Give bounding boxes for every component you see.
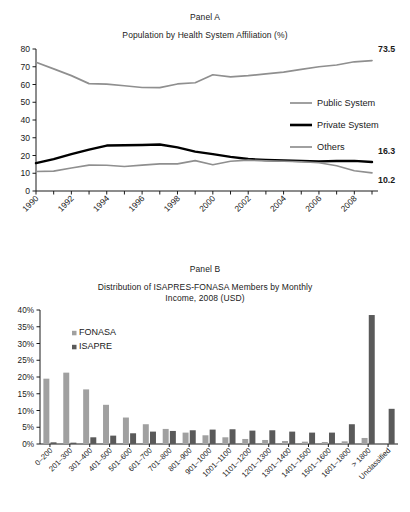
- bar-isapre: [90, 437, 96, 444]
- panel-a-titles: Panel A Population by Health System Affi…: [0, 12, 410, 41]
- panel-b-subtitle-line2: Income, 2008 (USD): [0, 293, 410, 304]
- y-tick-label: 60: [20, 80, 30, 90]
- y-tick-label: 10: [20, 168, 30, 178]
- panel-a-label: Panel A: [0, 12, 410, 23]
- bar-isapre: [110, 436, 116, 444]
- bar-fonasa: [262, 440, 268, 444]
- bar-fonasa: [83, 389, 89, 444]
- bar-fonasa: [322, 442, 328, 444]
- end-label-others: 10.2: [378, 175, 395, 185]
- y-tick-label: 30%: [18, 340, 34, 349]
- bar-isapre: [349, 424, 355, 444]
- bar-isapre: [309, 433, 315, 444]
- bar-isapre: [130, 433, 136, 444]
- bar-fonasa: [183, 433, 189, 444]
- bar-isapre: [51, 442, 57, 444]
- legend-label-others: Others: [317, 142, 345, 152]
- y-tick-label: 50: [20, 97, 30, 107]
- bar-fonasa: [202, 435, 208, 444]
- bar-isapre: [269, 430, 275, 444]
- bar-isapre: [170, 431, 176, 444]
- bar-fonasa: [163, 429, 169, 444]
- bar-isapre: [70, 443, 76, 444]
- panel-a: Panel A Population by Health System Affi…: [0, 0, 410, 256]
- panel-b-titles: Panel B Distribution of ISAPRES-FONASA M…: [0, 264, 410, 304]
- y-tick-label: 70: [20, 62, 30, 72]
- y-tick-label: 5%: [22, 423, 34, 432]
- x-tick-label: 2006: [303, 193, 323, 213]
- y-tick-label: 30: [20, 133, 30, 143]
- bar-isapre: [230, 429, 236, 444]
- x-tick-label: 1996: [126, 193, 146, 213]
- bar-fonasa: [342, 441, 348, 444]
- bar-isapre: [190, 430, 196, 444]
- panel-b-subtitle-line1: Distribution of ISAPRES-FONASA Members b…: [0, 282, 410, 293]
- panel-b-chart: 0%5%10%15%20%25%30%35%40%0–200201–300301…: [0, 304, 410, 512]
- bar-isapre: [289, 432, 295, 444]
- y-tick-label: 20: [20, 151, 30, 161]
- panel-b: Panel B Distribution of ISAPRES-FONASA M…: [0, 256, 410, 512]
- x-tick-label: 1990: [20, 193, 40, 213]
- bar-fonasa: [123, 418, 129, 444]
- legend-label-isapre: ISAPRE: [79, 341, 112, 351]
- x-tick-label: 1992: [56, 193, 76, 213]
- bar-fonasa: [282, 441, 288, 444]
- bar-fonasa: [43, 379, 49, 444]
- x-tick-label: 2008: [338, 193, 358, 213]
- end-label-public: 73.5: [378, 44, 395, 54]
- bar-isapre: [389, 409, 395, 444]
- end-label-private: 16.3: [378, 146, 395, 156]
- x-tick-label: 2002: [232, 193, 252, 213]
- figure-page: Panel A Population by Health System Affi…: [0, 0, 410, 512]
- panel-a-subtitle: Population by Health System Affiliation …: [0, 30, 410, 41]
- x-tick-label: 1994: [91, 193, 111, 213]
- bar-fonasa: [103, 405, 109, 444]
- bar-isapre: [150, 432, 156, 444]
- bar-fonasa: [63, 373, 69, 444]
- bar-isapre: [210, 430, 216, 444]
- x-tick-label: 2000: [197, 193, 217, 213]
- y-tick-label: 10%: [18, 407, 34, 416]
- bar-isapre: [249, 431, 255, 444]
- legend-swatch-fonasa: [72, 331, 77, 336]
- x-tick-label: 2004: [268, 193, 288, 213]
- y-tick-label: 40%: [18, 306, 34, 315]
- y-tick-label: 25%: [18, 356, 34, 365]
- y-tick-label: 35%: [18, 323, 34, 332]
- y-tick-label: 20%: [18, 373, 34, 382]
- panel-b-label: Panel B: [0, 264, 410, 275]
- bar-fonasa: [143, 424, 149, 444]
- x-tick-label: 1998: [162, 193, 182, 213]
- bar-isapre: [369, 315, 375, 444]
- y-tick-label: 0%: [22, 440, 34, 449]
- legend-label-private-system: Private System: [317, 120, 379, 130]
- legend-swatch-isapre: [72, 345, 77, 350]
- legend-label-fonasa: FONASA: [79, 327, 116, 337]
- y-tick-label: 0: [25, 186, 30, 196]
- y-tick-label: 15%: [18, 390, 34, 399]
- y-tick-label: 80: [20, 44, 30, 54]
- legend-label-public-system: Public System: [317, 98, 376, 108]
- panel-a-chart: 0102030405060708019901992199419961998200…: [0, 41, 410, 256]
- y-tick-label: 40: [20, 115, 30, 125]
- series-line-public-system: [36, 61, 372, 88]
- bar-fonasa: [302, 442, 308, 444]
- bar-isapre: [329, 433, 335, 444]
- bar-fonasa: [242, 439, 248, 444]
- bar-fonasa: [362, 438, 368, 444]
- bar-fonasa: [222, 437, 228, 444]
